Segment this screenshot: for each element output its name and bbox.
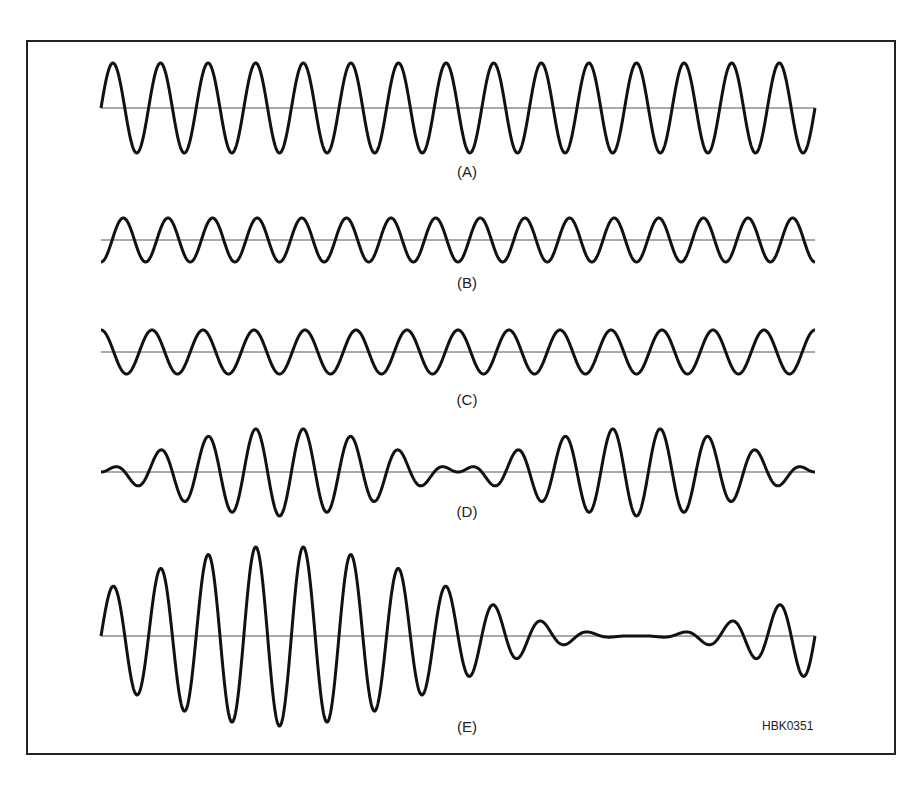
waveform-e: [101, 547, 815, 726]
panel-label-d: (D): [457, 503, 478, 520]
panel-label-a: (A): [457, 163, 477, 180]
figure-id-label: HBK0351: [762, 719, 813, 733]
panel-label-e: (E): [457, 718, 477, 735]
panel-label-b: (B): [457, 274, 477, 291]
panel-label-c: (C): [457, 391, 478, 408]
